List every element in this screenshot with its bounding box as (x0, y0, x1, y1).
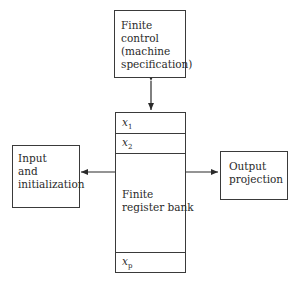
control-label-line-3: (machine (121, 45, 170, 58)
finite-control-box: Finite control (machine specification) (114, 10, 186, 78)
input-initialization-box: Input and initialization (12, 145, 80, 208)
output-label-line-1: Output (229, 160, 266, 173)
control-label-line-4: specification) (121, 58, 192, 71)
control-label-line-1: Finite (121, 19, 152, 32)
input-label-line-2: and (18, 165, 38, 178)
bank-label-line-1: Finite (122, 188, 153, 201)
control-label-line-2: control (121, 32, 159, 45)
input-label-line-1: Input (18, 152, 47, 165)
output-projection-box: Output projection (220, 151, 288, 200)
register-divider-2 (116, 153, 185, 154)
bank-label-line-2: register bank (122, 201, 194, 214)
register-divider-3 (116, 252, 185, 253)
register-x1: x1 (122, 116, 132, 131)
register-x2: x2 (122, 136, 132, 151)
output-label-line-2: projection (229, 173, 283, 186)
register-xp: xp (122, 255, 132, 270)
register-bank-box: x1 x2 Finite register bank xp (115, 112, 186, 273)
register-divider-1 (116, 133, 185, 134)
input-label-line-3: initialization (18, 178, 85, 191)
